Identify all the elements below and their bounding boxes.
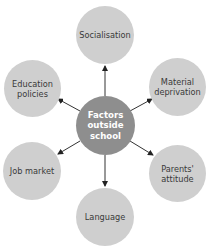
node-label: policies xyxy=(12,89,53,99)
node-parents-attitude: Parents' attitude xyxy=(149,145,206,202)
node-label: Material xyxy=(154,77,201,87)
node-label: Language xyxy=(85,212,125,222)
node-language: Language xyxy=(76,188,134,246)
node-socialisation: Socialisation xyxy=(76,6,134,64)
node-label: deprivation xyxy=(154,87,201,97)
node-label: Job market xyxy=(10,166,54,176)
node-label: Socialisation xyxy=(79,30,131,40)
node-material-deprivation: Material deprivation xyxy=(149,58,206,116)
arrow-to-education-policies xyxy=(58,99,80,111)
node-center: Factors outside school xyxy=(76,96,135,155)
center-label: Factors xyxy=(87,110,123,121)
node-label: Parents' xyxy=(161,164,194,174)
center-label: school xyxy=(87,131,123,142)
node-job-market: Job market xyxy=(3,142,61,200)
arrow-to-job-market xyxy=(58,141,80,154)
arrow-to-material-deprivation xyxy=(130,99,152,111)
node-education-policies: Education policies xyxy=(4,60,61,117)
center-label: outside xyxy=(87,120,123,131)
arrow-to-parents-attitude xyxy=(130,141,153,155)
node-label: Education xyxy=(12,79,53,89)
node-label: attitude xyxy=(161,174,194,184)
